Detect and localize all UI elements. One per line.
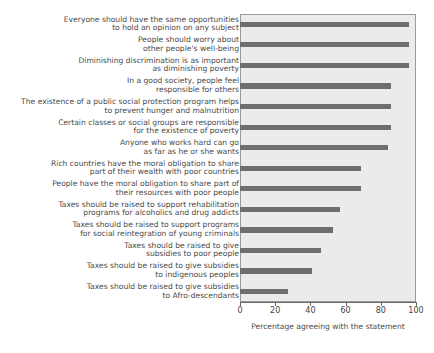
bar <box>240 104 391 109</box>
x-axis-label: Percentage agreeing with the statement <box>240 322 416 331</box>
bar-rows: Everyone should have the same opportunit… <box>0 14 434 302</box>
bar-row: Certain classes or social groups are res… <box>0 117 434 138</box>
bar-category-label: Certain classes or social groups are res… <box>0 119 239 136</box>
bar-category-label: Rich countries have the moral obligation… <box>0 160 239 177</box>
bar-category-label: In a good society, people feel responsib… <box>0 77 239 94</box>
bar-category-label: The existence of a public social protect… <box>0 98 239 115</box>
bar <box>240 227 333 232</box>
bar-row: Anyone who works hard can go as far as h… <box>0 137 434 158</box>
x-axis-line <box>240 302 416 303</box>
bar <box>240 125 391 130</box>
bar-row: People have the moral obligation to shar… <box>0 179 434 200</box>
x-tick-label: 100 <box>408 306 423 315</box>
bar-category-label: Taxes should be raised to support progra… <box>0 221 239 238</box>
bar-row: People should worry about other people's… <box>0 35 434 56</box>
bar-row: Rich countries have the moral obligation… <box>0 158 434 179</box>
bar-category-label: People have the moral obligation to shar… <box>0 180 239 197</box>
bar <box>240 145 388 150</box>
bar-category-label: Taxes should be raised to give subsidies… <box>0 262 239 279</box>
bar-category-label: People should worry about other people's… <box>0 36 239 53</box>
bar <box>240 166 361 171</box>
bar-row: Taxes should be raised to give subsidies… <box>0 281 434 302</box>
bar-row: Everyone should have the same opportunit… <box>0 14 434 35</box>
bar <box>240 22 409 27</box>
x-tick-label: 40 <box>305 306 315 315</box>
x-tick-label: 0 <box>237 306 242 315</box>
bar-category-label: Diminishing discrimination is as importa… <box>0 57 239 74</box>
bar-row: Taxes should be raised to support progra… <box>0 220 434 241</box>
x-tick-label: 80 <box>376 306 386 315</box>
bar <box>240 248 321 253</box>
bar-row: Taxes should be raised to support rehabi… <box>0 199 434 220</box>
bar <box>240 63 409 68</box>
bar <box>240 207 340 212</box>
bar-chart: Everyone should have the same opportunit… <box>0 0 434 353</box>
bar-row: Taxes should be raised to give subsidies… <box>0 240 434 261</box>
bar-category-label: Everyone should have the same opportunit… <box>0 16 239 33</box>
bar-row: The existence of a public social protect… <box>0 96 434 117</box>
bar-row: Taxes should be raised to give subsidies… <box>0 261 434 282</box>
x-tick-label: 20 <box>270 306 280 315</box>
bar-row: Diminishing discrimination is as importa… <box>0 55 434 76</box>
bar-row: In a good society, people feel responsib… <box>0 76 434 97</box>
bar <box>240 42 409 47</box>
bar <box>240 186 361 191</box>
bar-category-label: Taxes should be raised to give subsidies… <box>0 283 239 300</box>
bar <box>240 289 288 294</box>
bar-category-label: Taxes should be raised to give subsidies… <box>0 242 239 259</box>
bar <box>240 268 312 273</box>
x-tick-label: 60 <box>341 306 351 315</box>
bar <box>240 83 391 88</box>
bar-category-label: Anyone who works hard can go as far as h… <box>0 139 239 156</box>
bar-category-label: Taxes should be raised to support rehabi… <box>0 201 239 218</box>
